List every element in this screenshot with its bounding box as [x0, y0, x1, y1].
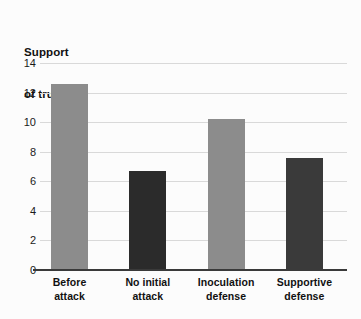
y-axis-tick-labels: 02468101214 [0, 0, 36, 319]
y-tick-label-12: 12 [10, 88, 36, 99]
bar-2 [208, 119, 245, 270]
bar-1 [129, 171, 166, 270]
bar-chart: Support of truism 02468101214 Beforeatta… [0, 0, 361, 319]
y-tick-label-6: 6 [10, 176, 36, 187]
x-label-3-line-0: Supportive [256, 276, 352, 290]
bar-0 [51, 84, 88, 270]
x-axis-category-labels: BeforeattackNo initialattackInoculationd… [0, 276, 361, 316]
x-label-3-line-1: defense [256, 290, 352, 304]
y-tick-label-10: 10 [10, 117, 36, 128]
y-tick-label-4: 4 [10, 206, 36, 217]
gridline-14 [40, 63, 347, 64]
bar-3 [286, 158, 323, 270]
x-label-3: Supportivedefense [256, 276, 352, 303]
y-tick-label-8: 8 [10, 147, 36, 158]
y-tick-label-14: 14 [10, 58, 36, 69]
y-tick-label-2: 2 [10, 235, 36, 246]
plot-area [40, 63, 347, 270]
x-axis-line [33, 269, 347, 271]
